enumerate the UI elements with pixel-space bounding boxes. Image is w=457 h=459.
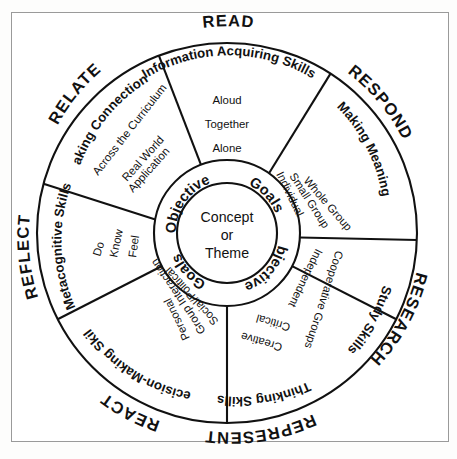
sector-item-read-2: Alone	[212, 142, 241, 154]
center-line-1: or	[221, 227, 234, 243]
literacy-wheel-diagram: READ RESPOND RESEARCH REPRESENT REACT RE…	[0, 0, 457, 459]
outer-label-read: READ	[201, 11, 255, 31]
center-line-2: Theme	[205, 245, 249, 261]
sector-item-read-0: Aloud	[212, 94, 241, 106]
page-background: READ RESPOND RESEARCH REPRESENT REACT RE…	[0, 0, 457, 459]
sector-item-read-1: Together	[205, 118, 250, 130]
center-line-0: Concept	[201, 209, 254, 225]
